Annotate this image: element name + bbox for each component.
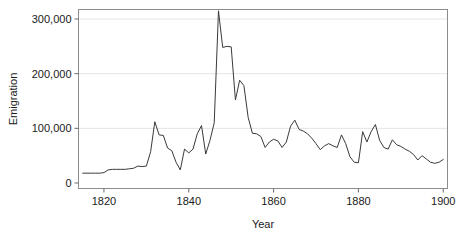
chart-figure: 0100,000200,000300,000 18201840186018801…: [0, 0, 464, 235]
x-tick-label: 1820: [92, 195, 116, 207]
y-tick-label: 0: [65, 177, 71, 189]
y-axis-title: Emigration: [7, 73, 19, 126]
x-tick-label: 1860: [261, 195, 285, 207]
x-tick-label: 1880: [346, 195, 370, 207]
chart-background: [0, 0, 464, 235]
y-tick-label: 300,000: [32, 13, 72, 25]
y-tick-label: 200,000: [32, 68, 72, 80]
y-tick-label: 100,000: [32, 122, 72, 134]
x-tick-label: 1840: [177, 195, 201, 207]
x-tick-label: 1900: [431, 195, 455, 207]
x-axis-title: Year: [252, 218, 275, 230]
emigration-line-chart: 0100,000200,000300,000 18201840186018801…: [0, 0, 464, 235]
